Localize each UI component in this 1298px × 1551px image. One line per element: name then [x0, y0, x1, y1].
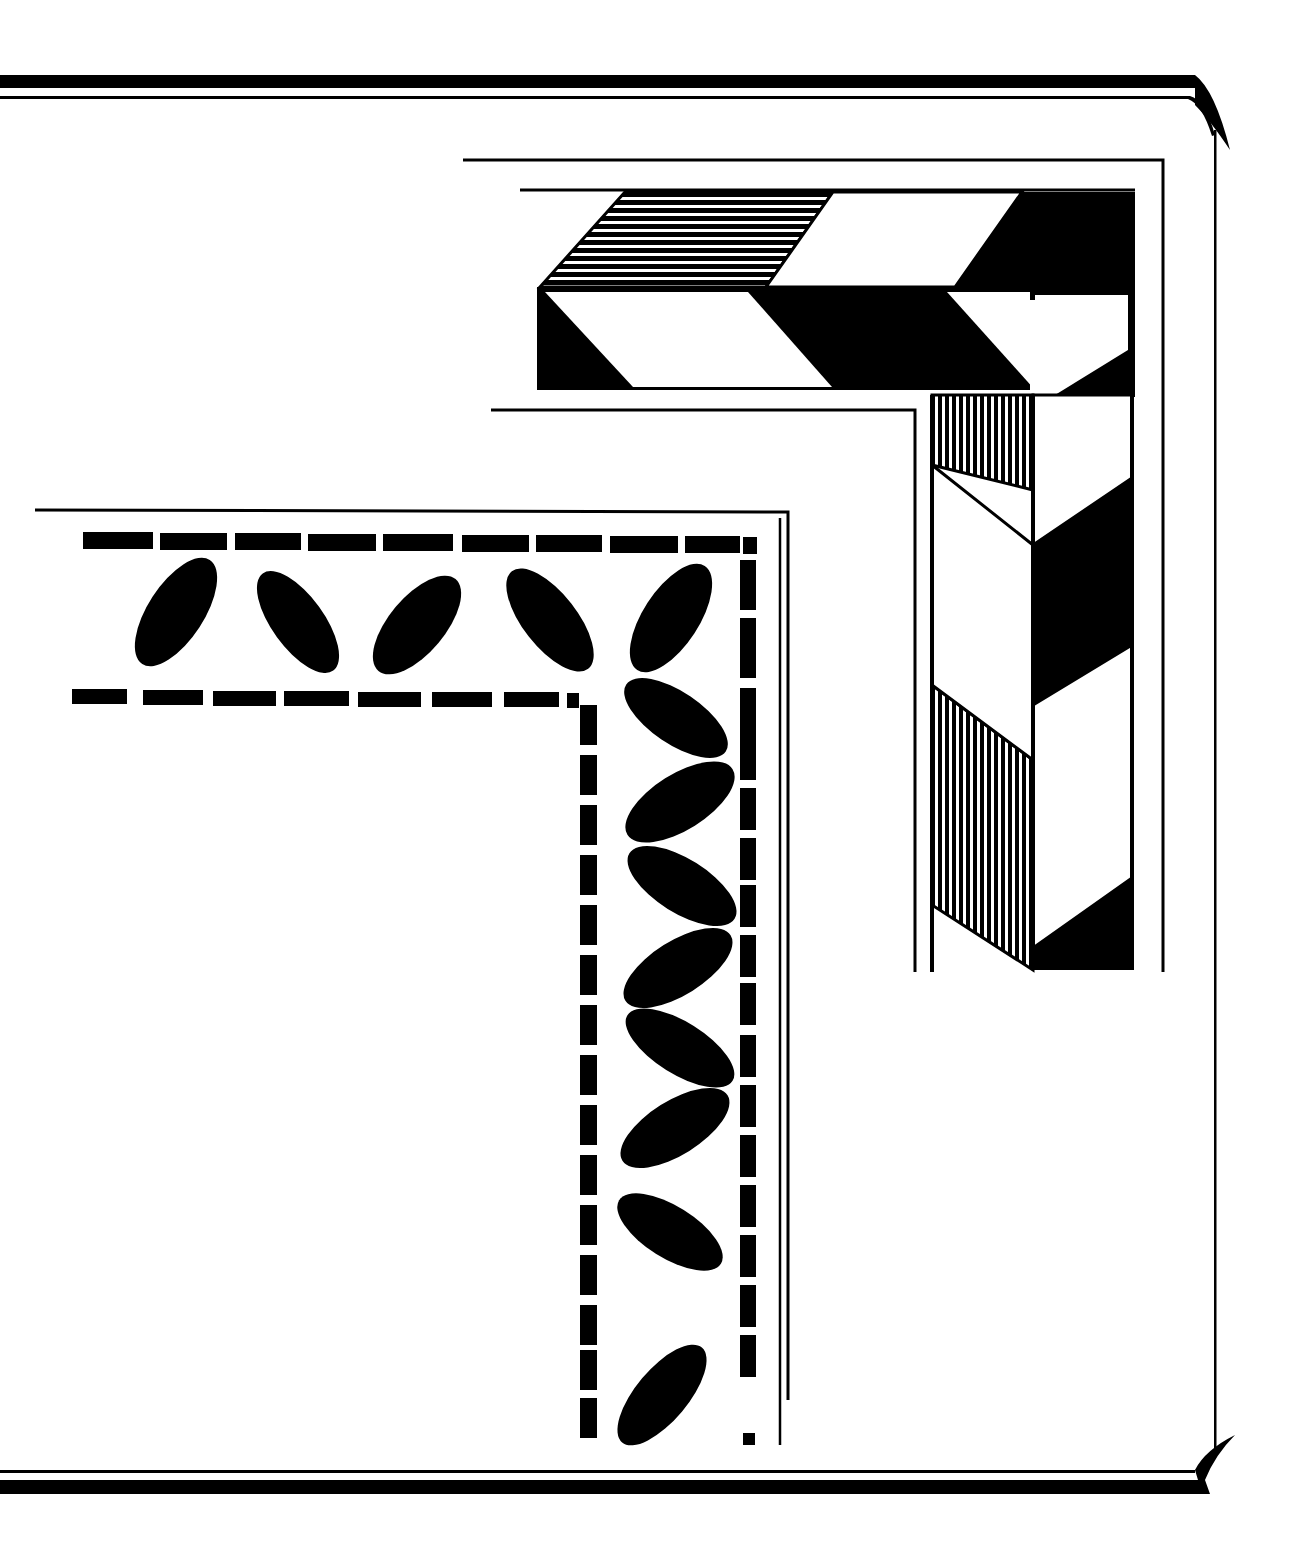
chevron-block-border — [463, 160, 1163, 972]
decorative-borders-illustration — [0, 0, 1298, 1551]
leaf-garland-border — [35, 510, 788, 1459]
